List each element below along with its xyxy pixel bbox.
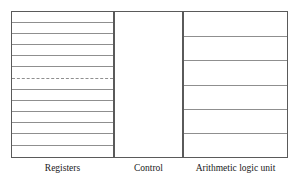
registers-row-divider [12, 22, 113, 23]
alu-row-divider [184, 60, 287, 61]
registers-row-divider [12, 111, 113, 112]
registers-row-divider [12, 55, 113, 56]
registers-row-divider [12, 122, 113, 123]
registers-row-divider [12, 145, 113, 146]
alu-row-divider [184, 133, 287, 134]
alu-caption: Arithmetic logic unit [183, 162, 288, 174]
registers-block [11, 11, 114, 158]
registers-row-divider [12, 100, 113, 101]
alu-row-divider [184, 109, 287, 110]
registers-row-divider [12, 44, 113, 45]
registers-row-divider [12, 66, 113, 67]
registers-caption: Registers [11, 162, 114, 174]
alu-row-divider [184, 85, 287, 86]
registers-row-divider [12, 78, 113, 79]
alu-row-divider [184, 36, 287, 37]
registers-row-divider [12, 33, 113, 34]
cpu-block-diagram: Registers Control Arithmetic logic unit [0, 0, 298, 182]
registers-row-divider [12, 133, 113, 134]
alu-row-group [184, 12, 287, 157]
registers-row-group [12, 12, 113, 157]
control-row-group [115, 12, 182, 157]
alu-block [183, 11, 288, 158]
registers-row-divider [12, 89, 113, 90]
control-caption: Control [114, 162, 183, 174]
control-block [114, 11, 183, 158]
